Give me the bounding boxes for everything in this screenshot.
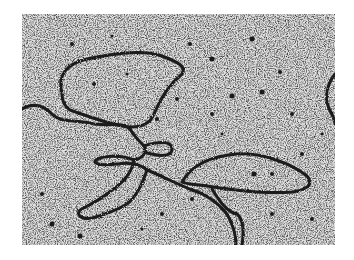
micrograph-texture [22,14,335,245]
micrograph-image [22,14,335,245]
